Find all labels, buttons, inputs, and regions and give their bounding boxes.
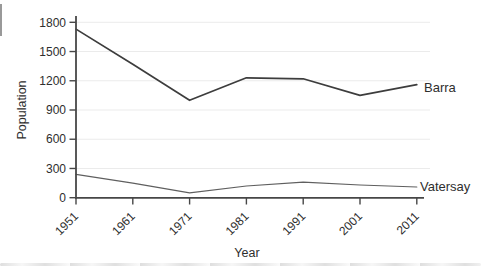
- series-label-barra: Barra: [424, 80, 457, 95]
- axis-tick-labels: 0300600900120015001800195119611971198119…: [39, 16, 422, 239]
- x-tick-label: 1951: [52, 209, 81, 238]
- page-scan-artifact: [0, 263, 481, 266]
- y-tick-label: 0: [59, 191, 66, 205]
- x-tick-label: 1961: [109, 209, 138, 238]
- y-tick-label: 900: [46, 103, 66, 117]
- x-tick-label: 1991: [280, 209, 309, 238]
- y-tick-label: 300: [46, 162, 66, 176]
- series-label-vatersay: Vatersay: [420, 179, 471, 194]
- y-tick-label: 1500: [39, 45, 66, 59]
- y-tick-label: 1800: [39, 16, 66, 30]
- x-tick-label: 2001: [336, 209, 365, 238]
- y-axis-title: Population: [15, 80, 29, 139]
- edge-scan-artifact: [0, 4, 2, 36]
- x-tick-label: 1971: [166, 209, 195, 238]
- gridlines: [76, 22, 430, 168]
- axis-ticks: [70, 22, 417, 204]
- y-tick-label: 1200: [39, 74, 66, 88]
- series-line-barra: [76, 29, 417, 100]
- y-tick-label: 600: [46, 132, 66, 146]
- x-tick-label: 1981: [223, 209, 252, 238]
- x-tick-label: 2011: [394, 209, 422, 237]
- population-line-chart: 0300600900120015001800195119611971198119…: [0, 0, 481, 270]
- x-axis-title: Year: [234, 246, 259, 260]
- line-chart-canvas: 0300600900120015001800195119611971198119…: [0, 0, 481, 270]
- series-line-vatersay: [76, 174, 417, 193]
